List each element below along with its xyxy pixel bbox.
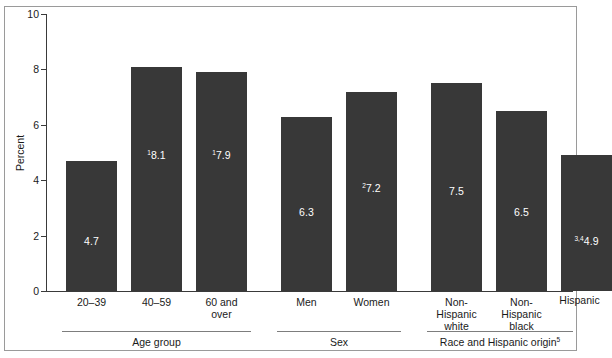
bar-value-40-59: 18.1 xyxy=(131,149,182,161)
y-tick-10 xyxy=(41,14,47,15)
y-axis-line xyxy=(46,14,47,292)
y-tick-label-8: 8 xyxy=(19,63,39,75)
category-label-60-and-over: 60 and over xyxy=(196,296,247,320)
category-label-non-hispanic-black: Non- Hispanic black xyxy=(496,296,547,332)
bar-men: 6.3 xyxy=(281,117,332,292)
y-tick-8 xyxy=(41,69,47,70)
bar-value-non-hispanic-white: 7.5 xyxy=(431,185,482,197)
bar-value-20-39: 4.7 xyxy=(66,235,117,247)
bar-value-60-and-over: 17.9 xyxy=(196,149,247,161)
category-label-non-hispanic-white: Non- Hispanic white xyxy=(431,296,482,332)
x-axis-line xyxy=(46,291,573,292)
bar-value-women: 27.2 xyxy=(346,182,397,194)
category-label-men: Men xyxy=(281,296,332,308)
y-tick-label-6: 6 xyxy=(19,119,39,131)
y-tick-label-4: 4 xyxy=(19,174,39,186)
bar-women: 27.2 xyxy=(346,92,397,291)
y-tick-0 xyxy=(41,291,47,292)
bar-40-59: 18.1 xyxy=(131,67,182,291)
y-tick-6 xyxy=(41,125,47,126)
y-tick-2 xyxy=(41,236,47,237)
group-bracket-age-group xyxy=(62,331,251,332)
y-tick-label-0: 0 xyxy=(19,285,39,297)
bar-20-39: 4.7 xyxy=(66,161,117,291)
y-axis-title: Percent xyxy=(14,135,26,171)
y-tick-label-2: 2 xyxy=(19,230,39,242)
bar-value-men: 6.3 xyxy=(281,206,332,218)
y-tick-4 xyxy=(41,180,47,181)
group-label-sex: Sex xyxy=(277,336,401,348)
group-label-age-group: Age group xyxy=(62,336,251,348)
bar-value-non-hispanic-black: 6.5 xyxy=(496,206,547,218)
bar-60-and-over: 17.9 xyxy=(196,72,247,291)
plot-area: 10 8 6 4 2 0 Percent 4.7 18.1 17.9 6.3 2… xyxy=(46,14,573,292)
bar-non-hispanic-black: 6.5 xyxy=(496,111,547,291)
group-bracket-sex xyxy=(277,331,401,332)
category-label-40-59: 40–59 xyxy=(131,296,182,308)
bar-value-hispanic: 3,44.9 xyxy=(561,235,612,247)
bar-non-hispanic-white: 7.5 xyxy=(431,83,482,291)
category-label-20-39: 20–39 xyxy=(66,296,117,308)
group-bracket-race-and-hispanic-origin xyxy=(427,331,573,332)
bar-hispanic: 3,44.9 xyxy=(561,155,612,291)
category-label-women: Women xyxy=(346,296,397,308)
group-label-race-and-hispanic-origin: Race and Hispanic origin5 xyxy=(417,336,583,348)
category-label-hispanic: Hispanic xyxy=(554,294,605,306)
y-tick-label-10: 10 xyxy=(19,8,39,20)
